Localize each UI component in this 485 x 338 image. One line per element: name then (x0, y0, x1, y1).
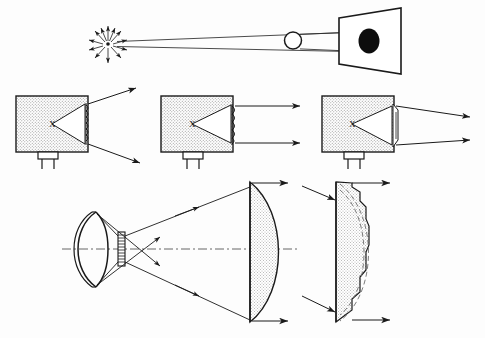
filament-marker: X (189, 119, 196, 129)
optics-figure: X X (0, 0, 485, 338)
projected-spot (359, 29, 380, 54)
filament-source (118, 232, 125, 266)
aperture-sphere (285, 32, 302, 49)
filament-marker: X (49, 119, 56, 129)
figure-background (0, 0, 485, 338)
source-core-dot (106, 42, 110, 46)
filament-marker: X (349, 119, 356, 129)
optics-diagram-canvas: X X (0, 0, 485, 338)
stepped-lens (393, 104, 398, 147)
